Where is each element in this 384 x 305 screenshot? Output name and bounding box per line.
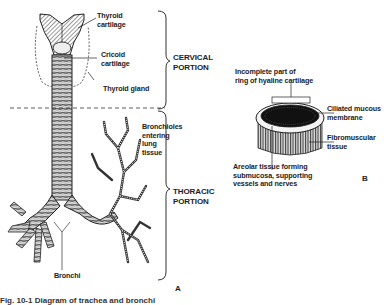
- label-bronchioles: Bronchioles entering lung tissue: [142, 123, 182, 157]
- label-incomplete-ring: Incomplete part of ring of hyaline carti…: [235, 68, 313, 85]
- trachea: [52, 55, 72, 200]
- label-thyroid-gland: Thyroid gland: [103, 85, 149, 94]
- label-areolar-tissue: Areolar tissue forming submucosa, suppor…: [233, 163, 312, 189]
- tracheal-ring-cross-section: [256, 97, 324, 155]
- right-main-bronchus: [64, 195, 118, 224]
- label-bronchi: Bronchi: [54, 272, 80, 281]
- panel-a-letter: A: [175, 284, 181, 294]
- label-cricoid-cartilage: Cricoid cartilage: [101, 51, 130, 68]
- label-thyroid-cartilage: Thyroid cartilage: [97, 12, 126, 29]
- panel-b-letter: B: [362, 174, 368, 184]
- label-ciliated-membrane: Ciliated mucous membrane: [327, 105, 381, 122]
- label-fibromuscular: Fibromuscular tissue: [327, 134, 376, 151]
- bronchi-leader: [54, 222, 70, 270]
- label-cervical-portion: CERVICAL PORTION: [173, 53, 213, 73]
- cervical-brace: [158, 11, 170, 109]
- label-thoracic-portion: THORACIC PORTION: [173, 187, 214, 207]
- larynx: [40, 14, 84, 55]
- figure-caption: Fig. 10-1 Diagram of trachea and bronchi: [0, 296, 155, 305]
